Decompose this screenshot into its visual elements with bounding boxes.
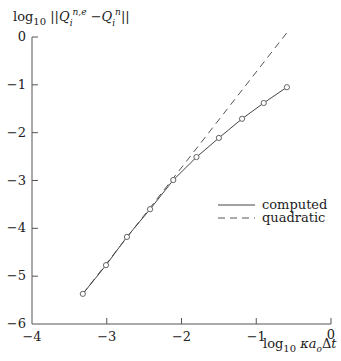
error-convergence-chart: log10 ||Qin,e −Qin|| 0−1−2−3−4−5−6 −4−3−… <box>0 0 341 361</box>
y-ticks: 0−1−2−3−4−5−6 <box>7 29 38 331</box>
data-point-marker <box>194 154 199 159</box>
data-point-marker <box>239 116 244 121</box>
x-tick-label: −2 <box>172 329 191 344</box>
y-tick-label: −1 <box>7 77 26 92</box>
computed-markers <box>80 85 289 297</box>
x-tick-label: −3 <box>97 329 116 344</box>
data-point-marker <box>124 234 129 239</box>
y-tick-label: −4 <box>7 220 26 235</box>
y-tick-label: −5 <box>7 268 26 283</box>
y-tick-label: −3 <box>7 173 26 188</box>
x-tick-label: −4 <box>22 329 41 344</box>
legend: computed quadratic <box>218 197 327 225</box>
computed-series-line <box>83 87 287 294</box>
y-axis-label: log10 ||Qin,e −Qin|| <box>13 7 130 28</box>
data-point-marker <box>103 263 108 268</box>
y-tick-label: 0 <box>18 29 26 44</box>
legend-label-quadratic: quadratic <box>262 210 325 225</box>
svg-text:log10 ||Qin,e −Qin||: log10 ||Qin,e −Qin|| <box>13 7 130 28</box>
data-point-marker <box>80 291 85 296</box>
svg-text:log10 κaoΔt: log10 κaoΔt <box>263 336 337 354</box>
y-tick-label: −2 <box>7 125 26 140</box>
data-point-marker <box>171 177 176 182</box>
data-point-marker <box>261 100 266 105</box>
x-axis-label: log10 κaoΔt <box>263 336 337 354</box>
data-point-marker <box>284 85 289 90</box>
axes <box>32 37 331 324</box>
data-point-marker <box>216 135 221 140</box>
x-ticks: −4−3−2−10 <box>22 318 335 344</box>
data-point-marker <box>148 207 153 212</box>
